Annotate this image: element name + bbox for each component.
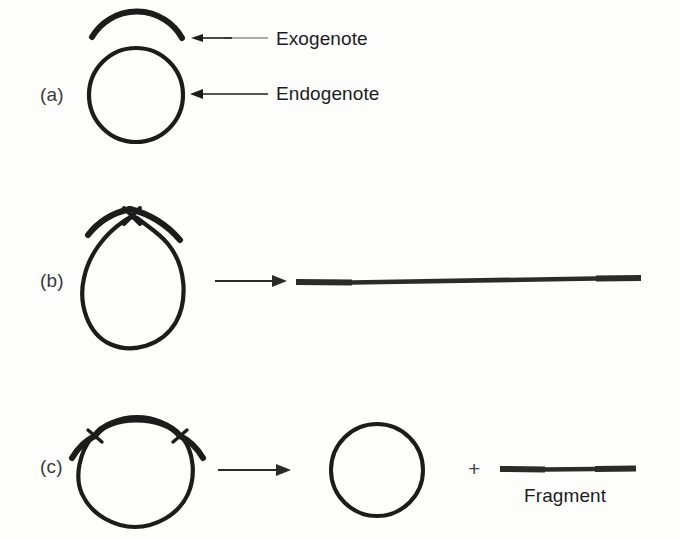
endogenote-callout-arrow — [190, 89, 268, 99]
panel-b-transform-arrow — [215, 275, 287, 287]
endogenote-label: Endogenote — [276, 83, 380, 105]
figure-canvas — [0, 0, 679, 538]
panel-c-exogenote-bridge — [95, 420, 180, 437]
panel-a-exogenote-arc — [92, 12, 182, 38]
panel-c-graphic — [72, 417, 636, 527]
panel-label-c: (c) — [40, 456, 63, 478]
panel-c-fragment-bar — [500, 469, 636, 470]
panel-b-linear-product — [296, 278, 641, 283]
panel-b-endogenote-loop — [82, 217, 183, 348]
panel-a-endogenote-circle — [89, 48, 183, 142]
plus-symbol: + — [468, 457, 480, 481]
panel-c-transform-arrow — [218, 464, 291, 476]
exogenote-callout-arrow — [191, 34, 268, 42]
panel-label-b: (b) — [40, 270, 64, 292]
recombination-figure: (a) (b) (c) Exogenote Endogenote + Fragm… — [0, 0, 679, 538]
panel-c-recombinant-circle — [331, 424, 423, 516]
panel-a-graphic — [89, 12, 268, 142]
panel-b-graphic — [82, 208, 641, 348]
panel-label-a: (a) — [40, 84, 64, 106]
fragment-label: Fragment — [524, 485, 606, 507]
exogenote-label: Exogenote — [276, 28, 368, 50]
panel-b-exogenote-arm-right — [130, 209, 180, 240]
